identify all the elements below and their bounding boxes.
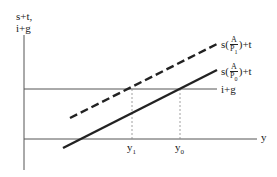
lower-curve-den-sub: 0 — [235, 76, 238, 82]
y-axis-label-line1: s+t, — [16, 10, 32, 22]
lower-curve-fraction: AP0 — [230, 63, 238, 83]
upper-curve-suffix: )+t — [239, 38, 252, 50]
tick-y0-sub: 0 — [181, 148, 185, 156]
tick-y1-sub: 1 — [133, 148, 137, 156]
upper-curve-label: s(AP1)+t — [221, 36, 252, 56]
lower-curve-label: s(AP0)+t — [221, 63, 252, 83]
x-axis-label: y — [261, 131, 267, 143]
tick-y0: y0 — [175, 141, 184, 158]
upper-curve-fraction: AP1 — [230, 36, 238, 56]
lower-curve-prefix: s( — [221, 65, 229, 77]
y-axis-label-line2: i+g — [16, 22, 31, 34]
i-plus-g-label: i+g — [221, 83, 236, 95]
upper-curve-prefix: s( — [221, 38, 229, 50]
upper-curve-den-sub: 1 — [235, 49, 238, 55]
tick-y1: y1 — [127, 141, 136, 158]
lower-curve-suffix: )+t — [239, 65, 252, 77]
